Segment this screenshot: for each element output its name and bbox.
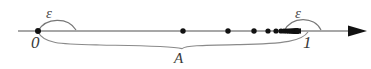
sequence-point — [180, 28, 185, 33]
epsilon-arc-left — [38, 20, 76, 31]
sequence-limit-accumulation — [297, 28, 301, 33]
axis-arrowhead-icon — [348, 26, 367, 37]
endpoint-label-one: 1 — [303, 33, 312, 53]
interval-brace — [38, 32, 308, 49]
sequence-point — [265, 28, 270, 33]
diagram-canvas — [0, 0, 371, 69]
epsilon-label-right: ε — [295, 5, 301, 22]
sequence-point — [251, 28, 256, 33]
set-label-a: A — [174, 50, 183, 67]
epsilon-label-left: ε — [46, 5, 52, 22]
number-line-diagram: ε ε 0 1 A — [0, 0, 371, 69]
sequence-point — [273, 28, 278, 33]
endpoint-label-zero: 0 — [31, 33, 40, 53]
sequence-point — [225, 28, 230, 33]
